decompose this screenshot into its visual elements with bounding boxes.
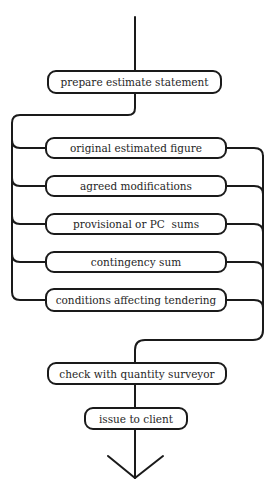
step-agreed-modifications: agreed modifications xyxy=(45,175,227,197)
left-branch-3 xyxy=(12,216,45,224)
step-prepare-estimate-statement: prepare estimate statement xyxy=(47,70,222,94)
flowchart-diagram: prepare estimate statement original esti… xyxy=(0,0,273,489)
step-original-estimated-figure: original estimated figure xyxy=(45,137,227,159)
step-label: issue to client xyxy=(99,413,173,425)
right-branch-4 xyxy=(227,262,263,270)
step-issue-to-client: issue to client xyxy=(84,407,188,430)
step-check-with-quantity-surveyor: check with quantity surveyor xyxy=(47,362,227,385)
left-branch-4 xyxy=(12,254,45,262)
right-branch-5 xyxy=(227,300,263,308)
left-branch-1 xyxy=(12,140,45,148)
step-label: provisional or PC sums xyxy=(73,218,199,230)
step-provisional-or-pc-sums: provisional or PC sums xyxy=(45,213,227,235)
step-label: original estimated figure xyxy=(70,142,202,154)
step-label: conditions affecting tendering xyxy=(56,294,217,306)
step-contingency-sum: contingency sum xyxy=(45,251,227,273)
step-conditions-affecting-tendering: conditions affecting tendering xyxy=(45,288,227,312)
step-label: agreed modifications xyxy=(80,180,192,192)
right-branch-1 xyxy=(227,148,263,156)
step-label: check with quantity surveyor xyxy=(59,368,214,380)
left-branch-2 xyxy=(12,178,45,186)
step-label: contingency sum xyxy=(91,256,181,268)
right-branch-2 xyxy=(227,186,263,194)
right-branch-3 xyxy=(227,224,263,232)
step-label: prepare estimate statement xyxy=(60,76,208,88)
